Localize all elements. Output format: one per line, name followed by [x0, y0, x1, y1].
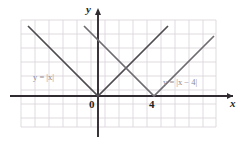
x-tick-label-4: 4 — [149, 99, 155, 110]
curve-annotation-abs-x: y = |x| — [33, 73, 54, 82]
absolute-value-graph-figure: y x 0 4 y = |x| y = |x − 4| — [0, 0, 244, 143]
x-axis — [10, 93, 233, 99]
y-axis-label: y — [86, 4, 91, 15]
x-axis-label: x — [230, 98, 236, 109]
curve-annotation-abs-x-minus-4: y = |x − 4| — [163, 78, 197, 87]
x-tick-label-0: 0 — [89, 99, 95, 110]
y-axis-arrow-icon — [95, 8, 101, 15]
